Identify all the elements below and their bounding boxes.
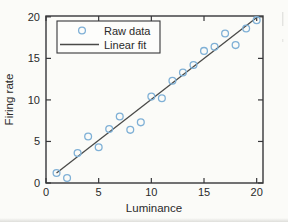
data-point	[116, 113, 123, 120]
scan-artifact	[282, 12, 283, 26]
scatter-plot: 0510152005101520 Raw data Linear fit Lum…	[0, 0, 288, 222]
data-point	[127, 126, 134, 133]
data-point	[158, 95, 165, 102]
y-axis-label: Firing rate	[3, 74, 15, 126]
x-tick-label: 20	[251, 186, 263, 198]
x-tick-label: 15	[198, 186, 210, 198]
x-tick-label: 0	[43, 186, 49, 198]
x-axis-label: Luminance	[126, 202, 182, 214]
data-point	[211, 43, 218, 50]
y-tick-label: 5	[34, 135, 40, 147]
x-tick-label: 10	[145, 186, 157, 198]
y-tick-label: 10	[28, 94, 40, 106]
data-point	[74, 150, 81, 157]
scanned-figure-page: 0510152005101520 Raw data Linear fit Lum…	[0, 0, 288, 222]
data-point	[222, 30, 229, 37]
y-tick-label: 20	[28, 11, 40, 23]
data-point	[137, 119, 144, 126]
data-point	[232, 42, 239, 49]
y-tick-label: 15	[28, 52, 40, 64]
x-tick-label: 5	[96, 186, 102, 198]
y-tick-label: 0	[34, 177, 40, 189]
legend-label-raw-data: Raw data	[104, 25, 151, 37]
legend: Raw data Linear fit	[57, 21, 160, 53]
data-point	[201, 47, 208, 54]
data-point	[64, 175, 71, 182]
data-point	[85, 133, 92, 140]
data-point	[95, 144, 102, 151]
legend-label-linear-fit: Linear fit	[104, 39, 146, 51]
scan-artifact	[282, 39, 283, 42]
